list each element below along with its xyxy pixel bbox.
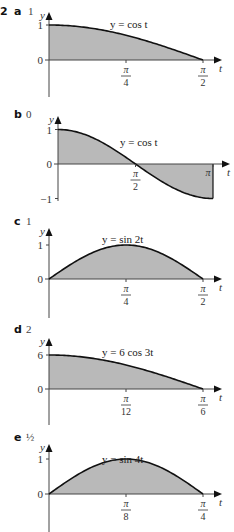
y-axis-arrow-c	[46, 228, 53, 236]
x-tick-num-e: π	[123, 498, 129, 509]
x-tick-num-b: π	[133, 168, 139, 179]
y-tick-label-d: 6	[38, 349, 44, 361]
y-axis-arrow-e	[46, 444, 53, 452]
x-axis-label-b: t	[227, 166, 231, 178]
part-label-c: c	[14, 215, 21, 228]
part-label-b: b	[14, 108, 22, 121]
y-axis-label-e: y	[39, 441, 45, 453]
part-label-e: e	[14, 431, 21, 444]
x-tick-den-c: 4	[124, 296, 129, 307]
x-tick-den-a: 2	[201, 77, 206, 88]
x-tick-den-e: 4	[201, 511, 206, 522]
part-answer-b: 0	[26, 108, 32, 120]
x-tick-num-c: π	[123, 283, 129, 294]
y-tick-label-b: 0	[47, 158, 53, 170]
y-tick-label-d: 0	[38, 383, 44, 395]
x-tick-den-d: 6	[201, 406, 206, 417]
function-label-b: y = cos t	[120, 136, 158, 148]
y-tick-label-e: 0	[38, 488, 44, 500]
y-tick-label-a: 0	[38, 54, 44, 66]
y-tick-label-e: 1	[38, 453, 44, 465]
x-axis-label-e: t	[219, 496, 223, 508]
x-axis-label-a: t	[219, 62, 223, 74]
x-tick-den-d: 12	[121, 406, 131, 417]
x-tick-num-a: π	[123, 64, 129, 75]
y-tick-label-a: 1	[38, 19, 44, 31]
part-label-d: d	[14, 323, 22, 336]
part-answer-c: 1	[26, 215, 32, 227]
x-tick-den-c: 2	[201, 296, 206, 307]
function-label-c: y = sin 2t	[102, 233, 143, 245]
part-answer-a: 1	[28, 5, 34, 17]
x-tick-num-d: π	[200, 393, 206, 404]
x-tick-num-d: π	[123, 393, 129, 404]
y-tick-label-b: 1	[47, 124, 53, 136]
part-answer-d: 2	[26, 323, 32, 335]
y-axis-arrow-d	[46, 338, 53, 346]
function-label-e: y = sin 4t	[102, 453, 143, 465]
y-axis-label-c: y	[39, 225, 45, 237]
x-axis-label-d: t	[219, 391, 223, 403]
y-tick-label-b: −1	[40, 193, 52, 205]
x-tick-num-c: π	[200, 283, 206, 294]
shaded-area-d	[49, 355, 203, 389]
x-tick-den-a: 4	[124, 77, 129, 88]
x-tick-den-b: 2	[133, 181, 138, 192]
question-number: 2	[0, 5, 8, 18]
part-label-a: a	[14, 5, 21, 18]
part-answer-e: ½	[26, 431, 34, 443]
shaded-area-c	[49, 245, 203, 279]
y-tick-label-c: 0	[38, 273, 44, 285]
x-tick-num-a: π	[200, 64, 206, 75]
x-tick-den-e: 8	[124, 511, 129, 522]
function-label-a: y = cos t	[110, 18, 148, 30]
y-tick-label-c: 1	[38, 239, 44, 251]
figure: 2 a1yt10π4π2y = cos tb0yt10−1π2πy = cos …	[0, 0, 234, 532]
y-axis-arrow-b	[55, 116, 62, 124]
shaded-area-a	[49, 25, 203, 60]
function-label-d: y = 6 cos 3t	[102, 346, 153, 358]
x-tick-num-e: π	[200, 498, 206, 509]
y-axis-label-d: y	[39, 335, 45, 347]
y-axis-arrow-a	[46, 12, 53, 20]
x-axis-label-c: t	[219, 281, 223, 293]
